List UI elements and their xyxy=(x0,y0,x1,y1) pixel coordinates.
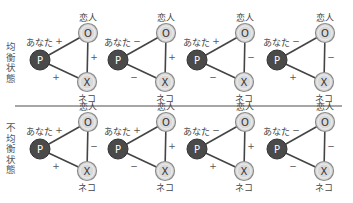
node-p-letter: P xyxy=(37,144,43,155)
node-o-letter: O xyxy=(321,28,329,39)
label-you: あなた xyxy=(26,127,53,137)
label-you: あなた xyxy=(263,127,290,137)
node-x-letter: X xyxy=(162,166,169,177)
node-x-letter: X xyxy=(321,166,328,177)
label-you: あなた xyxy=(183,127,210,137)
node-o-letter: O xyxy=(162,28,170,39)
pox-diagram-canvas: POX恋人ネコあなた+++POX恋人ネコあなた−+−POX恋人ネコあなた+−−P… xyxy=(0,0,353,203)
node-o-letter: O xyxy=(162,117,170,128)
label-lover: 恋人 xyxy=(316,12,334,23)
sign-p-o: − xyxy=(212,125,220,135)
node-o-letter: O xyxy=(321,117,329,128)
sign-p-x: − xyxy=(130,161,138,171)
sign-o-x: + xyxy=(168,52,176,62)
label-you: あなた xyxy=(183,38,210,48)
label-lover: 恋人 xyxy=(157,101,175,112)
sign-o-x: − xyxy=(90,141,98,151)
pox-triangle: POX恋人ネコあなた++− xyxy=(104,101,176,193)
label-you: あなた xyxy=(104,127,131,137)
sign-p-o: + xyxy=(212,36,220,46)
pox-triangle: POX恋人ネコあなた+++ xyxy=(26,12,98,104)
sign-p-x: − xyxy=(289,161,297,171)
label-lover: 恋人 xyxy=(236,101,254,112)
sign-p-o: − xyxy=(133,36,141,46)
pox-triangle: POX恋人ネコあなた+−− xyxy=(183,12,255,104)
node-p-letter: P xyxy=(194,55,200,66)
node-p-letter: P xyxy=(274,55,280,66)
node-x-letter: X xyxy=(162,77,169,88)
sign-p-x: + xyxy=(289,72,297,82)
node-o-letter: O xyxy=(84,117,92,128)
sign-o-x: + xyxy=(90,52,98,62)
sign-p-x: − xyxy=(209,72,217,82)
sign-o-x: − xyxy=(327,141,335,151)
sign-p-o: + xyxy=(55,36,63,46)
sign-p-o: + xyxy=(55,125,63,135)
label-cat: ネコ xyxy=(235,183,253,193)
label-lover: 恋人 xyxy=(316,101,334,112)
pox-triangle: POX恋人ネコあなた−++ xyxy=(183,101,255,193)
node-p-letter: P xyxy=(274,144,280,155)
node-o-letter: O xyxy=(241,117,249,128)
node-p-letter: P xyxy=(194,144,200,155)
label-lover: 恋人 xyxy=(79,101,97,112)
sign-p-x: − xyxy=(130,72,138,82)
sign-o-x: − xyxy=(327,52,335,62)
sign-p-x: + xyxy=(52,72,60,82)
node-x-letter: X xyxy=(84,166,91,177)
pox-triangle: POX恋人ネコあなた−−+ xyxy=(263,12,335,104)
node-x-letter: X xyxy=(241,77,248,88)
node-x-letter: X xyxy=(321,77,328,88)
pox-triangle: POX恋人ネコあなた+−+ xyxy=(26,101,98,193)
sign-p-o: + xyxy=(133,125,141,135)
label-lover: 恋人 xyxy=(79,12,97,23)
sign-o-x: − xyxy=(247,52,255,62)
sign-p-x: + xyxy=(209,161,217,171)
label-you: あなた xyxy=(263,38,290,48)
node-o-letter: O xyxy=(84,28,92,39)
node-x-letter: X xyxy=(241,166,248,177)
pox-triangle: POX恋人ネコあなた−+− xyxy=(104,12,176,104)
node-p-letter: P xyxy=(115,144,121,155)
sign-o-x: + xyxy=(168,141,176,151)
label-you: あなた xyxy=(104,38,131,48)
label-lover: 恋人 xyxy=(157,12,175,23)
node-x-letter: X xyxy=(84,77,91,88)
node-o-letter: O xyxy=(241,28,249,39)
label-cat: ネコ xyxy=(156,183,174,193)
sign-o-x: + xyxy=(247,141,255,151)
label-you: あなた xyxy=(26,38,53,48)
node-p-letter: P xyxy=(37,55,43,66)
label-cat: ネコ xyxy=(315,183,333,193)
pox-triangle: POX恋人ネコあなた−−− xyxy=(263,101,335,193)
sign-p-o: − xyxy=(292,125,300,135)
label-lover: 恋人 xyxy=(236,12,254,23)
sign-p-x: + xyxy=(52,161,60,171)
sign-p-o: − xyxy=(292,36,300,46)
node-p-letter: P xyxy=(115,55,121,66)
label-cat: ネコ xyxy=(78,183,96,193)
